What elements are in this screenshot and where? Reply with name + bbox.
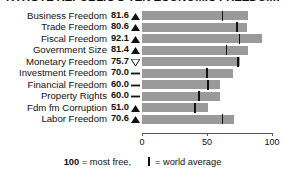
chart-bar-track [142,115,272,124]
legend-world-average-label: = world average [155,157,221,167]
trend-up-icon [131,102,141,114]
chart-row-value: 75.7 [108,56,129,68]
chart-row: Business Freedom81.6 [0,10,285,22]
world-average-marker [237,57,239,67]
chart-row: Investment Freedom70.0 [0,68,285,80]
chart-plot-area: Business Freedom81.6Trade Freedom80.6Fis… [0,10,285,132]
chart-bar-track [142,46,272,55]
chart-bar [142,34,262,43]
chart-row-value: 60.0 [108,90,129,102]
chart-bar [142,103,208,112]
chart-row-value: 81.4 [108,44,129,56]
legend-most-free-label: = most free, [82,157,131,167]
chart-row: Government Size81.4 [0,45,285,57]
axis-tick-label: 0 [139,137,144,147]
chart-row: Property Rights60.0 [0,91,285,103]
chart-row-label: Property Rights [0,90,107,102]
chart-row-label: Business Freedom [0,10,107,22]
chart-bar-track [142,11,272,20]
chart-row: Monetary Freedom75.7 [0,56,285,68]
chart-bar-track [142,103,272,112]
chart-row-value: 80.6 [108,21,129,33]
axis-tick [207,133,208,136]
axis-tick [272,133,273,136]
chart-row: Financial Freedom60.0 [0,79,285,91]
trend-flat-icon [131,91,141,103]
world-average-marker [222,11,224,21]
world-average-marker [236,22,238,32]
world-average-marker [198,91,200,101]
trend-up-icon [131,33,141,45]
world-average-marker-icon [148,157,150,166]
chart-bar [142,23,247,32]
chart-row: Fiscal Freedom92.1 [0,33,285,45]
trend-up-icon [131,10,141,22]
trend-flat-icon [131,68,141,80]
chart-bar [142,57,240,66]
axis-tick-label: 100 [264,137,279,147]
chart-bar-track [142,57,272,66]
chart-row-label: Fiscal Freedom [0,33,107,45]
chart-row-label: Fdm fm Corruption [0,102,107,114]
chart-row-value: 60.0 [108,79,129,91]
chart-legend: 100 = most free, = world average [0,155,285,171]
chart-bar-track [142,23,272,32]
chart-bar-track [142,80,272,89]
chart-bar [142,115,234,124]
chart-row-label: Investment Freedom [0,67,107,79]
world-average-marker [207,80,209,90]
trend-up-icon [131,114,141,126]
chart-row-label: Labor Freedom [0,113,107,125]
chart-bar [142,46,248,55]
chart-bar [142,11,248,20]
trend-flat-icon [131,79,141,91]
chart-row: Trade Freedom80.6 [0,22,285,34]
chart-bar [142,69,233,78]
axis-tick [142,133,143,136]
world-average-marker [194,103,196,113]
legend-most-free-value: 100 [64,157,80,167]
chart-row: Labor Freedom70.6 [0,114,285,126]
page-title: KYRGYZ REPUBLIC'S TEN ECONOMIC FREEDOMS [6,0,279,3]
world-average-marker [226,45,228,55]
chart-bar-track [142,69,272,78]
x-axis: 050100 [0,133,285,153]
chart-bar-track [142,34,272,43]
world-average-marker [239,34,241,44]
chart-row-value: 51.0 [108,102,129,114]
chart-row-value: 70.6 [108,113,129,125]
chart-bar [142,92,220,101]
chart-row-value: 92.1 [108,33,129,45]
chart-row-value: 70.0 [108,67,129,79]
world-average-marker [206,68,208,78]
world-average-marker [222,114,224,124]
chart-row-value: 81.6 [108,10,129,22]
chart-row: Fdm fm Corruption51.0 [0,102,285,114]
chart-row-label: Monetary Freedom [0,56,107,68]
chart-bar-track [142,92,272,101]
trend-up-icon [131,45,141,57]
chart-row-label: Financial Freedom [0,79,107,91]
axis-tick-label: 50 [202,137,212,147]
chart-row-label: Trade Freedom [0,21,107,33]
trend-down-icon [131,56,141,68]
chart-row-label: Government Size [0,44,107,56]
trend-up-icon [131,22,141,34]
